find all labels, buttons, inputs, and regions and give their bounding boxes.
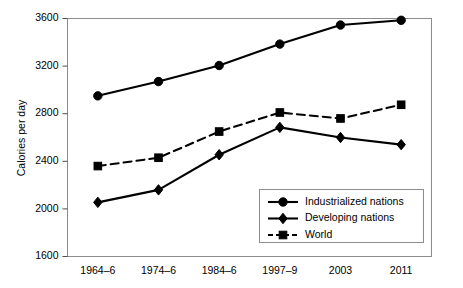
data-point-0-5 [397,16,405,24]
data-point-2-1 [155,154,163,162]
circle-marker [279,198,287,206]
data-point-1-2 [215,150,223,160]
data-point-1-4 [336,132,344,142]
data-point-2-0 [94,162,102,170]
series-line-0 [98,20,401,96]
y-axis-tickmarks [63,19,68,257]
data-point-0-2 [215,61,223,69]
legend-label-1: Developing nations [305,211,394,223]
y-tick-label-3600: 3600 [35,11,59,23]
x-tick-label-0: 1964–6 [80,264,115,276]
data-series-layer [94,16,406,207]
x-tick-label-4: 2003 [329,264,353,276]
data-point-0-3 [276,40,284,48]
series-2 [94,101,405,170]
calories-per-day-line-chart: 160020002400280032003600 Calories per da… [0,0,463,288]
data-point-2-2 [215,128,223,136]
series-0 [94,16,406,100]
data-point-1-5 [397,139,405,149]
x-tick-label-3: 1997–9 [262,264,297,276]
x-tick-label-5: 2011 [390,264,413,276]
y-tick-label-2000: 2000 [35,202,59,214]
data-point-2-4 [337,115,345,123]
data-point-0-0 [94,92,102,100]
square-marker [279,231,287,239]
y-axis-tick-labels: 160020002400280032003600 [35,11,59,261]
y-tick-label-2800: 2800 [35,106,59,118]
x-axis-tick-labels: 1964–61974–61984–61997–920032011 [80,264,412,276]
y-tick-label-3200: 3200 [35,59,59,71]
data-point-1-0 [94,197,102,207]
data-point-1-1 [154,185,162,195]
data-point-0-1 [154,77,162,85]
y-tick-label-1600: 1600 [35,249,59,261]
x-tick-label-2: 1984–6 [202,264,237,276]
y-tick-label-2400: 2400 [35,154,59,166]
legend-label-2: World [305,228,332,240]
y-axis-title: Calories per day [15,99,27,176]
data-point-2-3 [276,109,284,117]
data-point-2-5 [397,101,405,109]
x-tick-label-1: 1974–6 [141,264,176,276]
series-line-2 [98,105,401,166]
chart-legend: Industrialized nationsDeveloping nations… [260,190,424,243]
data-point-1-3 [276,122,284,132]
data-point-0-4 [336,21,344,29]
chart-container: 160020002400280032003600 Calories per da… [0,0,463,288]
legend-label-0: Industrialized nations [305,195,404,207]
